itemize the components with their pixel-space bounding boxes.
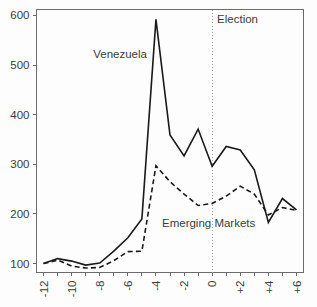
plot-border bbox=[37, 10, 304, 273]
x-tick-label-+6: +6 bbox=[291, 281, 303, 294]
y-tick-label-100: 100 bbox=[10, 258, 29, 270]
y-tick-label-200: 200 bbox=[10, 208, 29, 220]
x-tick-label--10: -10 bbox=[66, 281, 78, 298]
y-axis-tick-labels: 100200300400500600 bbox=[10, 9, 29, 269]
series-inline-labels: VenezuelaEmerging Markets bbox=[93, 48, 255, 229]
x-tick-label--6: -6 bbox=[122, 281, 134, 291]
x-tick-label--8: -8 bbox=[94, 281, 106, 291]
x-axis-ticks bbox=[44, 273, 297, 277]
line-chart: 100200300400500600 -12-10-8-6-4-20+2+4+6… bbox=[0, 0, 317, 307]
y-tick-label-600: 600 bbox=[10, 9, 29, 21]
y-tick-label-400: 400 bbox=[10, 109, 29, 121]
x-tick-label-+2: +2 bbox=[234, 281, 246, 294]
x-axis-tick-labels: -12-10-8-6-4-20+2+4+6 bbox=[38, 280, 303, 297]
x-tick-label-+4: +4 bbox=[263, 280, 275, 294]
x-tick-label--12: -12 bbox=[38, 281, 50, 298]
x-tick-label--4: -4 bbox=[150, 280, 162, 291]
plot-frame bbox=[37, 10, 304, 273]
chart-figure: 100200300400500600 -12-10-8-6-4-20+2+4+6… bbox=[0, 0, 317, 307]
series-label-emerging-markets: Emerging Markets bbox=[162, 217, 256, 229]
y-tick-label-300: 300 bbox=[10, 158, 29, 170]
x-tick-label-0: 0 bbox=[206, 281, 218, 287]
x-tick-label--2: -2 bbox=[178, 281, 190, 291]
annotation-label-election: Election bbox=[217, 13, 258, 25]
annotation-labels: Election bbox=[217, 13, 258, 25]
y-tick-label-500: 500 bbox=[10, 59, 29, 71]
series-lines bbox=[44, 19, 297, 268]
series-label-venezuela: Venezuela bbox=[93, 48, 147, 60]
y-axis-ticks bbox=[33, 15, 37, 263]
